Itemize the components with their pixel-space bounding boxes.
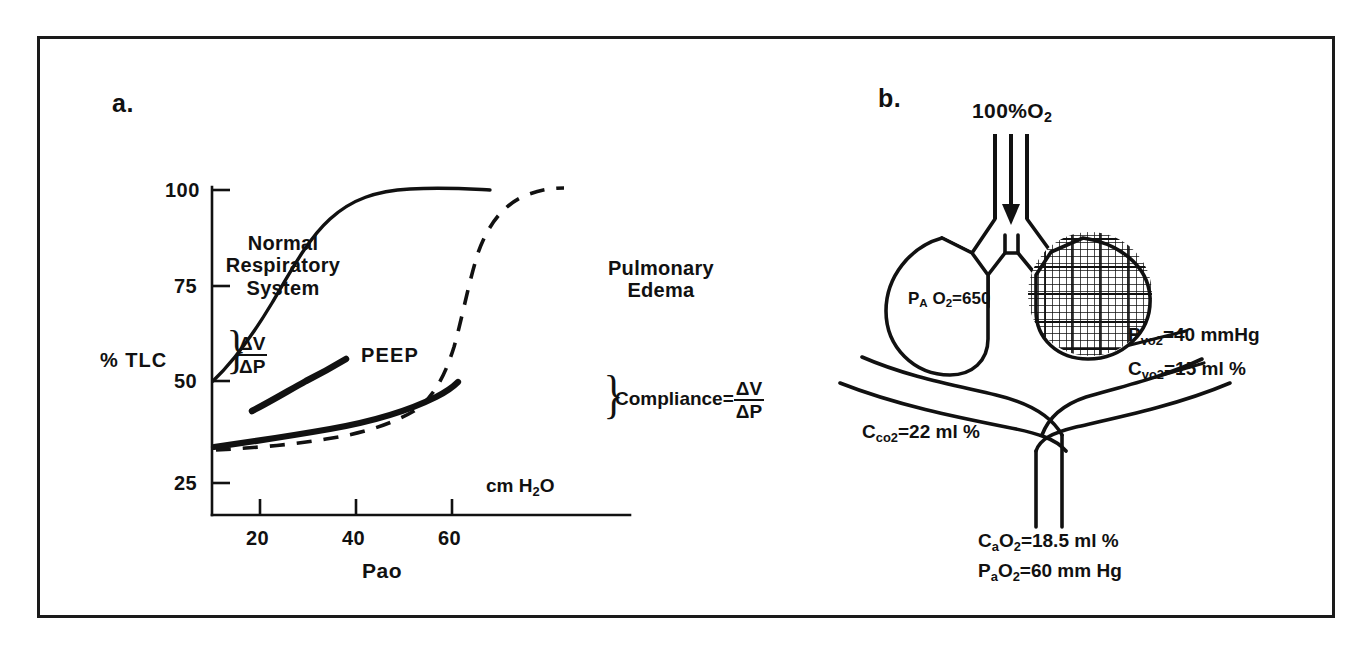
arterial-cao2-species-sub: 2 <box>1014 539 1021 554</box>
arterial-pao2-value: =60 mm Hg <box>1020 560 1122 581</box>
y-axis-label: % TLC <box>100 349 167 372</box>
airflow-arrowhead <box>1002 204 1020 225</box>
capillary-cco2-symbol: C <box>862 421 876 442</box>
inspired-oxygen-percent: 100% <box>972 99 1027 122</box>
annotation-normal-line-1: Normal <box>248 232 319 254</box>
x-axis-label: Pao <box>362 559 402 583</box>
capillary-cco2-value: =22 ml % <box>898 421 980 442</box>
figure-root: a. <box>0 0 1371 650</box>
annotation-normal-line-2: Respiratory <box>226 254 340 276</box>
arterial-pao2-species-sub: 2 <box>1013 569 1020 584</box>
panel-a: a. <box>40 39 800 615</box>
xtick-label-60: 60 <box>438 527 461 550</box>
panel-a-plot <box>40 39 800 621</box>
compliance-prefix: Compliance= <box>615 388 734 409</box>
mixed-venous-co2-value: =15 ml % <box>1164 358 1246 379</box>
mixed-venous-co2-sub: vo <box>1142 367 1157 382</box>
ytick-label-75: 75 <box>174 275 197 298</box>
annotation-edema-line-2: Edema <box>627 279 694 301</box>
annotation-pulmonary-edema: Pulmonary Edema <box>591 257 731 302</box>
arterial-cao2-symbol: C <box>978 530 992 551</box>
x-axis-ticks <box>260 499 452 516</box>
annotation-compliance: Compliance= ΔV ΔP <box>615 379 764 421</box>
annotation-normal-line-3: System <box>247 277 320 299</box>
bronchus-left-inner <box>988 235 1005 307</box>
compliance-denominator: ΔP <box>734 401 764 421</box>
ytick-label-100: 100 <box>165 179 200 202</box>
annotation-normal-respiratory-system: Normal Respiratory System <box>208 232 358 299</box>
ytick-label-25: 25 <box>174 472 197 495</box>
mixed-venous-po2-sub: vo <box>1141 333 1156 348</box>
arterial-pao2-sub: a <box>991 569 998 584</box>
compliance-numerator: ΔV <box>734 379 764 401</box>
label-arterial-po2: PaO2=60 mm Hg <box>978 560 1122 584</box>
fraction-compliance: ΔV ΔP <box>734 379 764 421</box>
mixed-venous-co2-sub2: 2 <box>1157 367 1164 382</box>
arterial-cao2-species: O <box>999 530 1014 551</box>
capillary-cco2-sub2: 2 <box>891 430 898 445</box>
curve-pulmonary-edema <box>216 188 564 450</box>
label-capillary-oxygen-content: Cco2=22 ml % <box>862 421 980 445</box>
mixed-venous-po2-value: =40 mmHg <box>1163 324 1260 345</box>
ytick-label-50: 50 <box>174 370 197 393</box>
x-axis-unit-tail: O <box>540 475 555 496</box>
alveolar-po2-value: =650 <box>952 289 990 308</box>
arterial-pao2-symbol: P <box>978 560 991 581</box>
alveolar-po2-symbol: P <box>908 289 919 308</box>
fraction-dv-dp: ΔV ΔP <box>237 334 267 376</box>
annotation-edema-line-1: Pulmonary <box>608 257 714 279</box>
alveolar-po2-compartment: A <box>919 297 927 309</box>
xtick-label-20: 20 <box>246 527 269 550</box>
mixed-venous-po2-symbol: P <box>1128 324 1141 345</box>
mixed-venous-po2-sub2: 2 <box>1156 333 1163 348</box>
fraction-numerator-dv: ΔV <box>237 334 267 356</box>
label-inspired-oxygen: 100%O2 <box>972 99 1052 125</box>
arterial-cao2-value: =18.5 ml % <box>1021 530 1119 551</box>
arterial-cao2-sub: a <box>992 539 999 554</box>
annotation-peep: PEEP <box>361 344 419 366</box>
label-mixed-venous-po2: Pvo2=40 mmHg <box>1128 324 1260 348</box>
capillary-cco2-sub: co <box>876 430 891 445</box>
alveolar-po2-species: O <box>932 289 945 308</box>
x-axis-unit-main: cm H <box>486 475 532 496</box>
arterial-pao2-species: O <box>998 560 1013 581</box>
fraction-denominator-dp: ΔP <box>237 356 267 376</box>
label-arterial-oxygen-content: CaO2=18.5 ml % <box>978 530 1119 554</box>
x-axis-unit-sub: 2 <box>532 484 539 499</box>
xtick-label-40: 40 <box>342 527 365 550</box>
annotation-delta-v-over-delta-p: ΔV ΔP <box>237 334 267 376</box>
x-axis-unit-label: cm H2O <box>486 475 554 499</box>
inspired-oxygen-sub: 2 <box>1044 109 1052 125</box>
label-mixed-venous-oxygen-content: Cvo2=15 ml % <box>1128 358 1246 382</box>
panel-b: b. <box>800 39 1335 615</box>
inspired-oxygen-species: O <box>1027 99 1044 122</box>
figure-frame: a. <box>37 36 1335 618</box>
label-alveolar-po2: PA O2=650 <box>908 289 990 310</box>
mixed-venous-co2-symbol: C <box>1128 358 1142 379</box>
vessel-right-lower-wall <box>1036 383 1230 451</box>
